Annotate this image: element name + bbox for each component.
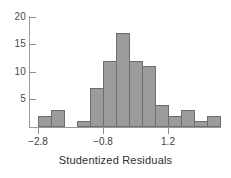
histogram-bar	[168, 116, 182, 127]
histogram-bar	[207, 116, 221, 127]
bars-layer	[0, 0, 231, 178]
histogram-bar	[181, 110, 195, 127]
x-axis-title: Studentized Residuals	[0, 154, 231, 166]
histogram-bar	[38, 116, 52, 127]
histogram-bar	[155, 105, 169, 127]
histogram-bar	[194, 121, 208, 127]
histogram-bar	[116, 33, 130, 127]
histogram-bar	[51, 110, 65, 127]
histogram-bar	[77, 121, 91, 127]
histogram-bar	[103, 61, 117, 127]
histogram-bar	[90, 88, 104, 127]
histogram-bar	[142, 66, 156, 127]
histogram-bar	[129, 61, 143, 127]
histogram-chart: 2015105 −2.8−0.81.2 Studentized Residual…	[0, 0, 231, 178]
